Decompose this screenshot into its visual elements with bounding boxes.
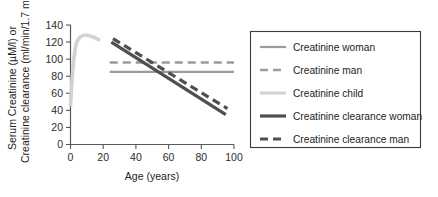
y-tick-label: 80 [51, 70, 63, 82]
y-axis-ticks: 020406080100120140 [45, 19, 70, 151]
legend-label: Creatinine woman [293, 42, 375, 53]
y-axis-title-line1: Serum Creatinine (µM/l) or [6, 26, 18, 150]
x-tick-label: 80 [195, 151, 207, 163]
y-tick-label: 100 [45, 53, 63, 65]
x-tick-label: 40 [130, 151, 142, 163]
x-tick-label: 20 [97, 151, 109, 163]
y-tick-label: 0 [57, 138, 63, 150]
y-axis-title: Serum Creatinine (µM/l) or Creatinine cl… [6, 0, 31, 163]
chart-figure: Serum Creatinine (µM/l) or Creatinine cl… [0, 0, 438, 197]
legend-label: Creatinine clearance woman [293, 111, 422, 122]
x-axis-ticks: 020406080100 [68, 145, 243, 164]
legend-label: Creatinine child [293, 88, 364, 99]
series-creatinine-clearance-man [113, 39, 227, 109]
legend-label: Creatinine man [293, 65, 362, 76]
y-tick-label: 20 [51, 121, 63, 133]
legend: Creatinine womanCreatinine manCreatinine… [251, 32, 423, 148]
creatinine-vs-age-chart: Serum Creatinine (µM/l) or Creatinine cl… [0, 0, 438, 197]
data-series-group [71, 35, 235, 114]
y-tick-label: 140 [45, 19, 63, 31]
y-tick-label: 60 [51, 87, 63, 99]
series-creatinine-child [71, 35, 100, 106]
series-creatinine-clearance-woman [111, 42, 225, 115]
y-axis-title-line2: Creatinine clearance (ml/min/1.7 m²) [19, 0, 31, 163]
y-tick-label: 40 [51, 104, 63, 116]
x-tick-label: 0 [68, 151, 74, 163]
x-axis-title: Age (years) [125, 170, 179, 182]
x-tick-label: 100 [225, 151, 243, 163]
x-tick-label: 60 [163, 151, 175, 163]
y-tick-label: 120 [45, 36, 63, 48]
legend-label: Creatinine clearance man [293, 134, 409, 145]
